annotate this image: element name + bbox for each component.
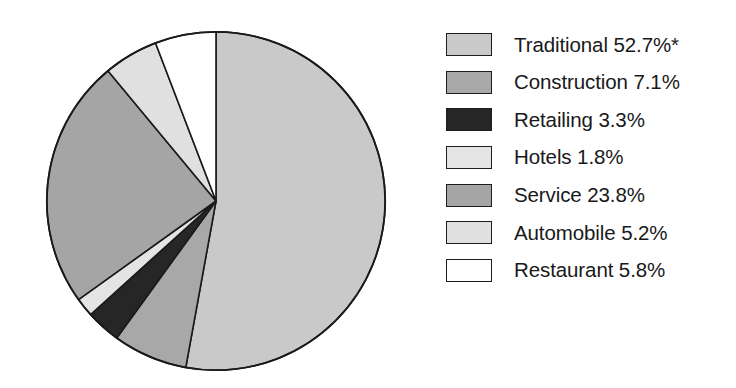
legend-item[interactable]: Traditional 52.7%*	[446, 26, 736, 64]
legend-item[interactable]: Construction 7.1%	[446, 64, 736, 102]
legend-item-label: Traditional 52.7%*	[514, 35, 679, 56]
legend-item-label: Service 23.8%	[514, 185, 645, 206]
legend-item-label: Construction 7.1%	[514, 72, 680, 93]
legend-swatch-icon	[446, 259, 492, 282]
legend-item[interactable]: Retailing 3.3%	[446, 101, 736, 139]
legend-swatch-icon	[446, 33, 492, 56]
legend-item-label: Retailing 3.3%	[514, 110, 645, 131]
legend-item-label: Automobile 5.2%	[514, 223, 667, 244]
legend-swatch-icon	[446, 108, 492, 131]
legend-item[interactable]: Hotels 1.8%	[446, 139, 736, 177]
legend-item[interactable]: Service 23.8%	[446, 176, 736, 214]
pie-slice-group	[47, 32, 385, 370]
pie-chart-figure: Traditional 52.7%*Construction 7.1%Retai…	[0, 0, 736, 388]
legend-item-label: Restaurant 5.8%	[514, 260, 665, 281]
legend-item-label: Hotels 1.8%	[514, 147, 623, 168]
legend-item[interactable]: Restaurant 5.8%	[446, 252, 736, 290]
legend-swatch-icon	[446, 146, 492, 169]
chart-legend: Traditional 52.7%*Construction 7.1%Retai…	[446, 26, 736, 289]
legend-swatch-icon	[446, 221, 492, 244]
pie-chart-graphic	[45, 30, 387, 372]
legend-swatch-icon	[446, 184, 492, 207]
pie-svg	[45, 30, 387, 372]
legend-swatch-icon	[446, 71, 492, 94]
legend-item[interactable]: Automobile 5.2%	[446, 214, 736, 252]
